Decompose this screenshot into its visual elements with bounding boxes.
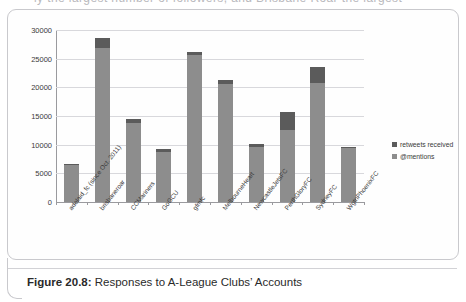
y-tick-label: 5000 xyxy=(0,169,52,178)
x-tick xyxy=(241,202,242,205)
bar-segment-retweets xyxy=(280,112,295,130)
figure-box: 050001000015000200002500030000 adelaid_f… xyxy=(7,9,459,260)
bar-segment-mentions xyxy=(187,55,202,202)
x-tick xyxy=(333,202,334,205)
x-tick xyxy=(87,202,88,205)
figure-caption: Figure 20.8: Responses to A-League Clubs… xyxy=(27,276,427,288)
figure-caption-text: Responses to A-League Clubs’ Accounts xyxy=(92,276,303,288)
x-tick xyxy=(118,202,119,205)
bar-segment-retweets xyxy=(341,147,356,148)
x-tick xyxy=(148,202,149,205)
y-tick-label: 0 xyxy=(0,198,52,207)
x-tick xyxy=(179,202,180,205)
bar-segment-mentions xyxy=(218,84,233,202)
legend-label: retweets received xyxy=(400,141,453,148)
page-top-text-bleed: ly the largest number of followers, and … xyxy=(0,0,466,9)
legend-item-mentions: @mentions xyxy=(392,153,453,160)
bar-segment-mentions xyxy=(126,123,141,202)
y-tick-label: 30000 xyxy=(0,26,52,35)
bar-segment-retweets xyxy=(95,38,110,48)
caption-left-border xyxy=(7,258,22,299)
bar-melbourneheart xyxy=(218,30,233,202)
bar-ccmariners xyxy=(126,30,141,202)
bar-segment-mentions xyxy=(280,130,295,202)
bar-segment-mentions xyxy=(310,83,325,202)
y-tick-label: 10000 xyxy=(0,141,52,150)
bar-segment-retweets xyxy=(310,67,325,83)
chart-plot-area: 050001000015000200002500030000 adelaid_f… xyxy=(56,30,364,202)
bar-gogcu xyxy=(156,30,171,202)
caption-divider xyxy=(7,268,457,269)
figure-caption-label: Figure 20.8: xyxy=(27,276,92,288)
bar-gfmfc xyxy=(187,30,202,202)
x-tick xyxy=(272,202,273,205)
bar-segment-retweets xyxy=(126,119,141,122)
chart-legend: retweets received@mentions xyxy=(392,141,453,165)
legend-item-retweets-received: retweets received xyxy=(392,141,453,148)
bar-segment-retweets xyxy=(218,80,233,84)
bar-segment-retweets xyxy=(187,52,202,55)
bar-sydneyfc xyxy=(310,30,325,202)
bar-adelaid-fc-since-oct-2011- xyxy=(64,30,79,202)
legend-swatch-icon xyxy=(392,154,397,159)
x-tick xyxy=(56,202,57,205)
legend-swatch-icon xyxy=(392,142,397,147)
bar-segment-retweets xyxy=(64,164,79,165)
y-tick-label: 20000 xyxy=(0,83,52,92)
bar-segment-retweets xyxy=(156,149,171,152)
x-tick xyxy=(302,202,303,205)
y-tick-label: 15000 xyxy=(0,112,52,121)
x-tick xyxy=(364,202,365,205)
bar-wgtnphoenixfc xyxy=(341,30,356,202)
y-tick-label: 25000 xyxy=(0,55,52,64)
x-tick xyxy=(210,202,211,205)
legend-label: @mentions xyxy=(400,153,434,160)
page-bleed-text: ly the largest number of followers, and … xyxy=(34,0,402,5)
bar-segment-retweets xyxy=(249,144,264,147)
